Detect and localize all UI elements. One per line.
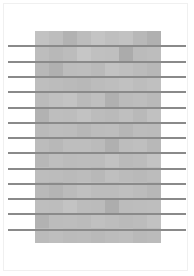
horizontal-rule bbox=[8, 137, 186, 139]
grid-tile bbox=[35, 46, 49, 61]
grid-tile bbox=[133, 46, 147, 61]
grid-tile bbox=[91, 46, 105, 61]
horizontal-rule bbox=[8, 76, 186, 78]
grid-tile bbox=[133, 92, 147, 107]
grid-tile bbox=[133, 31, 147, 46]
grid-tile bbox=[147, 152, 161, 167]
grid-tile bbox=[77, 122, 91, 137]
grid-tile bbox=[49, 31, 63, 46]
horizontal-rule bbox=[8, 61, 186, 63]
grid-tile bbox=[133, 152, 147, 167]
horizontal-rule bbox=[8, 198, 186, 200]
grid-tile bbox=[105, 46, 119, 61]
grid-tile bbox=[63, 122, 77, 137]
grid-tile bbox=[77, 61, 91, 76]
grid-tile bbox=[119, 46, 133, 61]
grid-tile bbox=[119, 152, 133, 167]
grid-tile bbox=[91, 137, 105, 152]
horizontal-rule bbox=[8, 152, 186, 154]
grid-tile bbox=[49, 46, 63, 61]
grid-tile bbox=[119, 61, 133, 76]
grid-tile bbox=[91, 31, 105, 46]
horizontal-rule bbox=[8, 183, 186, 185]
grid-tile bbox=[105, 122, 119, 137]
grid-tile bbox=[147, 92, 161, 107]
grid-tile bbox=[91, 76, 105, 91]
grid-tile bbox=[63, 61, 77, 76]
grid-tile bbox=[91, 61, 105, 76]
grid-tile bbox=[105, 137, 119, 152]
grid-tile bbox=[147, 137, 161, 152]
grid-tile bbox=[63, 137, 77, 152]
grid-tile bbox=[119, 92, 133, 107]
horizontal-rule bbox=[8, 168, 186, 170]
grid-tile bbox=[35, 92, 49, 107]
grid-tile bbox=[147, 46, 161, 61]
grid-tile bbox=[119, 31, 133, 46]
grid-tile bbox=[35, 76, 49, 91]
grid-tile bbox=[35, 61, 49, 76]
grid-tile bbox=[133, 61, 147, 76]
grid-tile bbox=[147, 61, 161, 76]
horizontal-rule bbox=[8, 213, 186, 215]
grid-tile bbox=[49, 76, 63, 91]
grid-tile bbox=[133, 137, 147, 152]
grid-tile bbox=[49, 137, 63, 152]
horizontal-rule bbox=[8, 107, 186, 109]
grid-tile bbox=[119, 76, 133, 91]
grid-tile bbox=[147, 122, 161, 137]
horizontal-rule bbox=[8, 45, 186, 47]
grid-tile bbox=[147, 76, 161, 91]
horizontal-rule bbox=[8, 91, 186, 93]
grid-tile bbox=[133, 122, 147, 137]
grid-tile bbox=[63, 92, 77, 107]
grid-tile bbox=[147, 31, 161, 46]
grid-tile bbox=[49, 122, 63, 137]
grid-tile bbox=[49, 152, 63, 167]
grid-tile bbox=[119, 137, 133, 152]
grid-tile bbox=[91, 92, 105, 107]
horizontal-rule bbox=[8, 122, 186, 124]
grid-tile bbox=[105, 92, 119, 107]
grid-tile bbox=[77, 137, 91, 152]
grid-tile bbox=[77, 92, 91, 107]
grid-tile bbox=[63, 76, 77, 91]
grid-tile bbox=[91, 122, 105, 137]
grid-tile bbox=[63, 46, 77, 61]
grid-tile bbox=[91, 152, 105, 167]
grid-tile bbox=[35, 31, 49, 46]
grid-tile bbox=[133, 76, 147, 91]
grid-tile bbox=[119, 122, 133, 137]
grid-tile bbox=[49, 92, 63, 107]
grid-tile bbox=[105, 152, 119, 167]
grid-tile bbox=[105, 61, 119, 76]
grid-tile bbox=[105, 31, 119, 46]
grid-tile bbox=[77, 152, 91, 167]
grid-tile bbox=[35, 122, 49, 137]
horizontal-rule bbox=[8, 229, 186, 231]
grid-tile bbox=[35, 137, 49, 152]
grid-tile bbox=[63, 31, 77, 46]
grid-tile bbox=[63, 152, 77, 167]
grid-tile bbox=[105, 76, 119, 91]
grid-tile bbox=[77, 31, 91, 46]
grid-tile bbox=[77, 46, 91, 61]
grid-tile bbox=[49, 61, 63, 76]
grid-tile bbox=[77, 76, 91, 91]
grid-tile bbox=[35, 152, 49, 167]
